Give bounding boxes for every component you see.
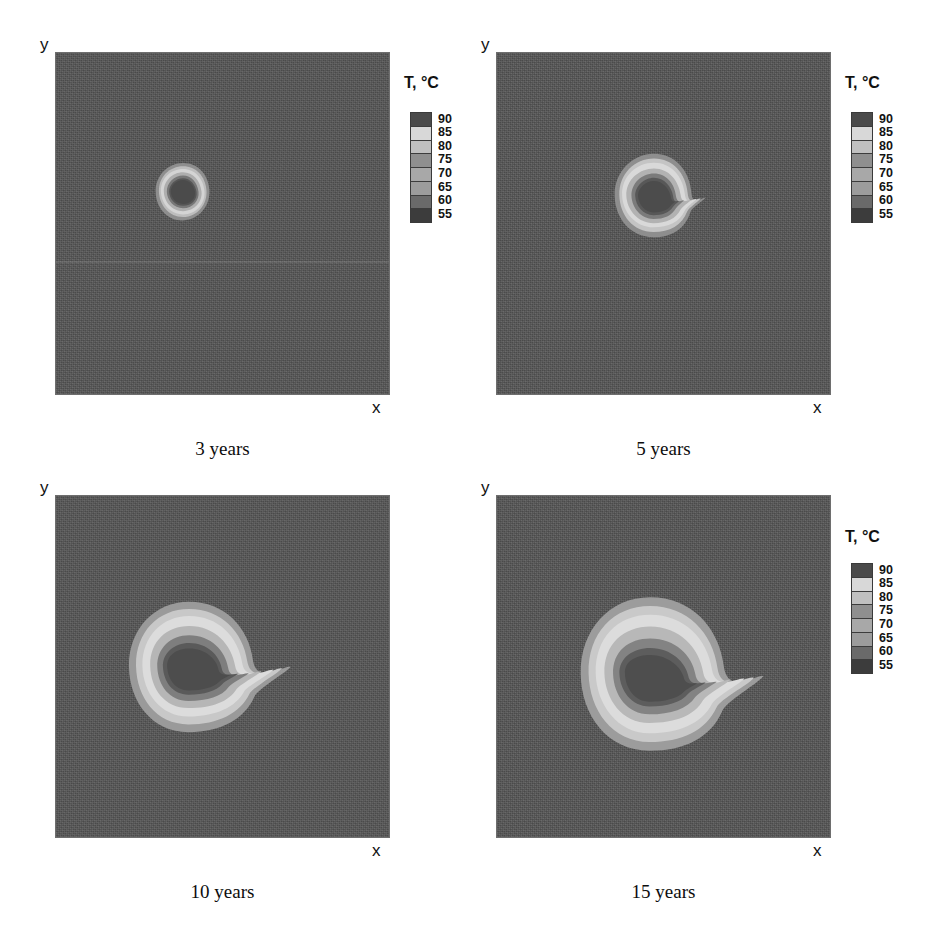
- panel-caption-15-years: 15 years: [496, 881, 831, 903]
- x-axis-label: x: [372, 842, 381, 859]
- colorbar-tick: 55: [879, 658, 893, 672]
- colorbar-band: [852, 604, 872, 618]
- colorbar-band: [852, 632, 872, 646]
- colorbar-tick: 60: [879, 194, 893, 208]
- colorbar-band: [411, 208, 431, 222]
- colorbar-band: [852, 659, 872, 673]
- colorbar-band: [411, 153, 431, 167]
- temperature-plume-3-years: [150, 159, 216, 225]
- colorbar-tick: 80: [438, 139, 452, 153]
- colorbar-band: [852, 564, 872, 577]
- colorbar-tick: 85: [879, 577, 893, 591]
- colorbar-tick: 80: [879, 139, 893, 153]
- colorbar-tick-labels-3-years: 90 85 80 75 70 65 60 55: [438, 112, 452, 221]
- colorbar-band: [411, 113, 431, 126]
- colorbar-band: [852, 126, 872, 140]
- colorbar-tick: 90: [879, 563, 893, 577]
- contour-plot-10-years: [55, 495, 390, 838]
- colorbar-band: [852, 577, 872, 591]
- colorbar-tick: 80: [879, 590, 893, 604]
- temperature-plume-15-years: [575, 591, 765, 757]
- colorbar-band: [852, 140, 872, 154]
- colorbar-band: [852, 618, 872, 632]
- colorbar-tick: 70: [879, 618, 893, 632]
- x-axis-label: x: [372, 399, 381, 416]
- colorbar-band: [411, 140, 431, 154]
- colorbar-tick-labels-5-years: 90 85 80 75 70 65 60 55: [879, 112, 893, 221]
- y-axis-label: y: [40, 479, 49, 496]
- colorbar-band: [852, 646, 872, 660]
- colorbar-3-years: [410, 112, 432, 223]
- colorbar-tick: 70: [879, 167, 893, 181]
- colorbar-band: [411, 181, 431, 195]
- colorbar-band: [852, 153, 872, 167]
- y-axis-label: y: [40, 36, 49, 53]
- colorbar-title-15-years: T, °C: [845, 528, 880, 546]
- colorbar-tick: 75: [879, 153, 893, 167]
- colorbar-5-years: [851, 112, 873, 223]
- colorbar-band: [411, 195, 431, 209]
- contour-plot-15-years: [496, 495, 831, 838]
- colorbar-band: [852, 195, 872, 209]
- colorbar-tick: 60: [879, 645, 893, 659]
- x-axis-label: x: [813, 842, 822, 859]
- colorbar-tick: 75: [438, 153, 452, 167]
- y-axis-label: y: [481, 36, 490, 53]
- colorbar-tick: 55: [879, 207, 893, 221]
- colorbar-title-5-years: T, °C: [845, 74, 880, 92]
- colorbar-band: [852, 113, 872, 126]
- colorbar-tick: 90: [879, 112, 893, 126]
- colorbar-band: [411, 167, 431, 181]
- colorbar-tick: 65: [879, 180, 893, 194]
- page-running-header: [430, 0, 930, 9]
- temperature-plume-5-years: [609, 149, 712, 243]
- colorbar-15-years: [851, 563, 873, 674]
- colorbar-title-3-years: T, °C: [404, 74, 439, 92]
- colorbar-tick: 75: [879, 604, 893, 618]
- colorbar-band: [852, 181, 872, 195]
- panel-caption-5-years: 5 years: [496, 438, 831, 460]
- colorbar-band: [852, 208, 872, 222]
- x-axis-label: x: [813, 399, 822, 416]
- colorbar-tick: 70: [438, 167, 452, 181]
- y-axis-label: y: [481, 479, 490, 496]
- colorbar-tick: 60: [438, 194, 452, 208]
- colorbar-tick: 85: [879, 126, 893, 140]
- colorbar-tick: 65: [438, 180, 452, 194]
- colorbar-tick: 90: [438, 112, 452, 126]
- colorbar-band: [411, 126, 431, 140]
- colorbar-band: [852, 167, 872, 181]
- contour-plot-5-years: [496, 52, 831, 395]
- temperature-plume-10-years: [124, 596, 294, 738]
- colorbar-band: [852, 591, 872, 605]
- scan-artifact-line: [56, 261, 389, 263]
- contour-plot-3-years: [55, 52, 390, 395]
- colorbar-tick-labels-15-years: 90 85 80 75 70 65 60 55: [879, 563, 893, 672]
- panel-caption-10-years: 10 years: [55, 881, 390, 903]
- colorbar-tick: 55: [438, 207, 452, 221]
- colorbar-tick: 65: [879, 631, 893, 645]
- panel-caption-3-years: 3 years: [55, 438, 390, 460]
- colorbar-tick: 85: [438, 126, 452, 140]
